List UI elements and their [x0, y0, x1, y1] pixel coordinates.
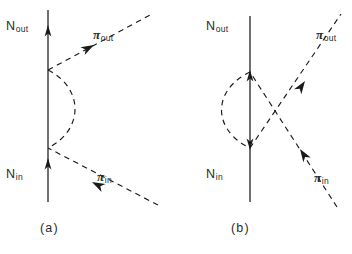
internal-meson-arc-a	[48, 70, 75, 148]
internal-meson-arc-b	[222, 72, 251, 148]
figure-root: Nout Nin πout πin (a) Nout Nin πout πin …	[0, 0, 352, 254]
label-nucleon-out-a-symbol: N	[6, 19, 15, 33]
pion-out-arrowhead-a	[80, 41, 96, 55]
label-pion-in-a: πin	[97, 170, 112, 185]
label-pion-in-b: πin	[314, 171, 329, 186]
label-pion-in-b-subscript: in	[321, 176, 329, 186]
label-pion-out-b-subscript: out	[323, 33, 336, 43]
diagram-canvas	[0, 0, 352, 254]
label-nucleon-out-b: Nout	[206, 20, 228, 34]
caption-b: (b)	[231, 222, 250, 235]
label-pion-out-b: πout	[316, 28, 337, 43]
label-nucleon-out-b-subscript: out	[215, 24, 228, 34]
label-pion-out-a: πout	[93, 28, 114, 43]
label-nucleon-in-b: Nin	[206, 168, 223, 182]
label-nucleon-in-a-symbol: N	[6, 167, 15, 181]
label-nucleon-in-b-symbol: N	[206, 167, 215, 181]
label-nucleon-out-b-symbol: N	[206, 19, 215, 33]
pion-in-line-b	[250, 72, 337, 207]
label-nucleon-in-a: Nin	[6, 168, 23, 182]
label-nucleon-in-a-subscript: in	[15, 172, 23, 182]
pion-in-arrowhead-b	[296, 147, 310, 163]
label-pion-in-a-subscript: in	[104, 175, 112, 185]
label-nucleon-out-a: Nout	[6, 20, 28, 34]
label-pion-out-a-subscript: out	[100, 33, 113, 43]
label-nucleon-out-a-subscript: out	[15, 24, 28, 34]
label-nucleon-in-b-subscript: in	[215, 172, 223, 182]
caption-a: (a)	[40, 222, 59, 235]
